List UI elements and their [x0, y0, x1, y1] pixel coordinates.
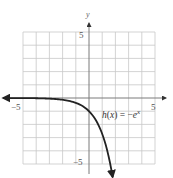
y-axis-name: y: [85, 10, 90, 19]
func-eq: ) = −: [114, 110, 133, 121]
x-tick-label-neg5: −5: [11, 102, 21, 112]
function-graph: y 5 −5 −5 5 h(x) = −ex: [0, 0, 173, 178]
y-tick-label-neg5: −5: [73, 157, 83, 167]
function-label: h(x) = −ex: [102, 108, 141, 121]
y-tick-label-5: 5: [79, 30, 84, 40]
x-tick-label-5: 5: [151, 102, 156, 112]
func-exponent: x: [136, 108, 141, 116]
